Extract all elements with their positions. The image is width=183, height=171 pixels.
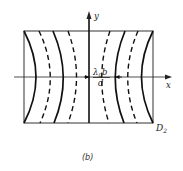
x-axis-arrow-icon (165, 75, 172, 80)
figure-caption: (b) (82, 153, 93, 162)
screen-label: D2 (155, 123, 167, 134)
spacing-label-numerator: λ0b (92, 67, 107, 78)
x-axis-label: x (166, 80, 171, 90)
fringe-diagram: λ0b d y x D2 (b) (0, 0, 183, 171)
y-axis-label: y (93, 11, 99, 21)
y-axis-arrow-icon (87, 11, 92, 19)
spacing-label-denominator: d (98, 78, 104, 88)
